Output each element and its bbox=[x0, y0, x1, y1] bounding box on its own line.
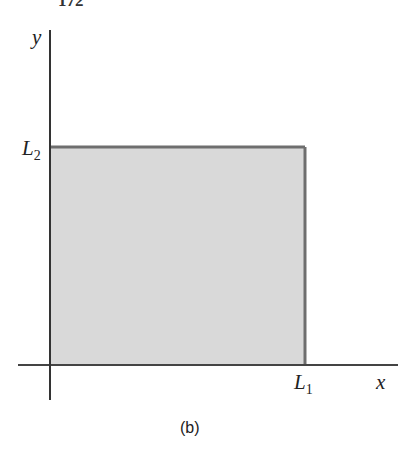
l1-label-sub: 1 bbox=[306, 382, 313, 397]
x-axis-label: x bbox=[376, 370, 385, 395]
l2-label-sub: 2 bbox=[34, 148, 41, 163]
diagram-canvas bbox=[0, 0, 418, 455]
l2-label-main: L bbox=[22, 136, 34, 160]
l2-label: L2 bbox=[22, 136, 41, 164]
shaded-region bbox=[51, 147, 305, 365]
l1-label: L1 bbox=[294, 370, 313, 398]
y-axis-label: y bbox=[32, 25, 41, 50]
l1-label-main: L bbox=[294, 370, 306, 394]
figure-caption: (b) bbox=[180, 419, 200, 437]
